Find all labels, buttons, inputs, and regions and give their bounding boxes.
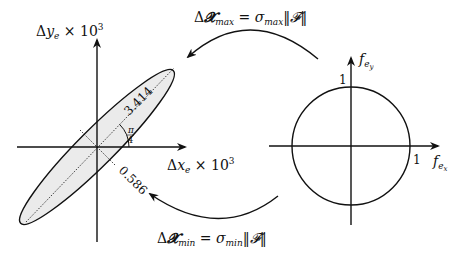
top-mapping-arrow: Δ𝓧max = σmax‖𝓕‖	[188, 9, 318, 59]
angle-label-numerator: π	[127, 125, 135, 135]
top-arrow-label: Δ𝓧max = σmax‖𝓕‖	[194, 9, 307, 27]
left-plot: Δye × 103 Δxe × 103 3.414 0.586 π 4	[8, 22, 235, 242]
right-x-axis-label: fex	[432, 153, 448, 173]
bottom-mapping-arrow: Δ𝓧min = σmin‖𝓕‖	[150, 194, 278, 248]
right-y-tick: 1	[339, 73, 347, 87]
minor-axis-value: 0.586	[116, 163, 150, 197]
right-plot: 1 1 fey fex	[269, 51, 448, 225]
left-x-axis-label: Δxe × 103	[167, 156, 235, 175]
bottom-arrow-label: Δ𝓧min = σmin‖𝓕‖	[157, 230, 267, 248]
angle-label-denominator: 4	[128, 135, 134, 145]
left-y-axis-label: Δye × 103	[36, 22, 104, 41]
right-y-axis-label: fey	[358, 51, 375, 71]
diagram-canvas: Δye × 103 Δxe × 103 3.414 0.586 π 4 1 1 …	[0, 0, 462, 257]
right-x-tick: 1	[413, 153, 421, 167]
